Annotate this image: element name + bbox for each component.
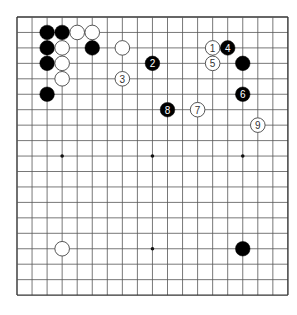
move-number-label: 7 [195,105,201,116]
star-point [241,154,245,158]
stone-circle [115,41,130,56]
black-stone: 2 [145,56,160,71]
white-stone [115,41,130,56]
move-number-label: 2 [150,58,156,69]
black-stone [235,56,250,71]
white-stone: 5 [205,56,220,71]
stone-circle [85,25,100,40]
white-stone [85,25,100,40]
stone-circle [85,41,100,56]
black-stone [40,25,55,40]
black-stone [40,87,55,102]
move-number-label: 6 [240,89,246,100]
stone-circle [40,41,55,56]
white-stone [55,41,70,56]
black-stone [85,41,100,56]
stone-circle [55,41,70,56]
move-number-label: 1 [210,43,216,54]
black-stone: 8 [160,102,175,117]
move-number-label: 5 [210,58,216,69]
white-stone [70,25,85,40]
stone-circle [55,241,70,256]
black-stone [235,241,250,256]
move-number-label: 9 [255,120,261,131]
stone-circle [55,56,70,71]
black-stone: 4 [220,41,235,56]
stone-circle [235,56,250,71]
stone-circle [55,25,70,40]
black-stone: 6 [235,87,250,102]
black-stone [40,56,55,71]
white-stone: 1 [205,41,220,56]
stone-circle [40,56,55,71]
move-number-label: 4 [225,43,231,54]
star-point [151,154,155,158]
black-stone [55,25,70,40]
white-stone: 7 [190,102,205,117]
black-stone [40,41,55,56]
star-point [151,247,155,251]
white-stone [55,241,70,256]
stone-circle [40,87,55,102]
move-number-label: 3 [120,74,126,85]
move-number-label: 8 [165,105,171,116]
stone-circle [40,25,55,40]
white-stone: 9 [250,118,265,133]
stone-circle [235,241,250,256]
stone-circle [70,25,85,40]
go-board[interactable]: 321456789 [0,0,297,315]
stone-circle [55,72,70,87]
star-point [60,154,64,158]
go-board-grid[interactable]: 321456789 [0,0,297,315]
white-stone [55,56,70,71]
white-stone [55,72,70,87]
white-stone: 3 [115,72,130,87]
